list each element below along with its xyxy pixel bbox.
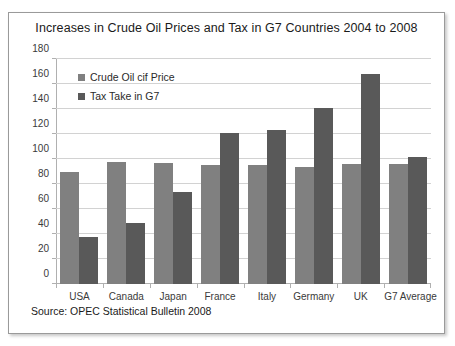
y-axis-tick-label: 160: [32, 68, 49, 79]
bar-group: Germany: [290, 59, 337, 284]
y-axis-tick-label: 100: [32, 143, 49, 154]
legend-swatch-icon: [78, 93, 85, 100]
x-axis-tick-label: Italy: [244, 291, 291, 302]
bar-group: UK: [337, 59, 384, 284]
y-axis-tick-label: 60: [38, 193, 49, 204]
legend-label: Tax Take in G7: [90, 90, 159, 102]
legend-entry: Crude Oil cif Price: [78, 71, 175, 83]
legend-label: Crude Oil cif Price: [90, 71, 175, 83]
bar-crude-oil-cif-price: [342, 164, 361, 284]
bar-crude-oil-cif-price: [154, 163, 173, 284]
bar-tax-take-in-g7: [173, 192, 192, 285]
bar-tax-take-in-g7: [408, 157, 427, 285]
plot-area: 020406080100120140160180 USACanadaJapanF…: [56, 59, 431, 284]
x-axis-tick-label: Germany: [290, 291, 337, 302]
chart-legend: Crude Oil cif PriceTax Take in G7: [78, 71, 175, 109]
bar-tax-take-in-g7: [314, 108, 333, 284]
y-axis-tick-label: 120: [32, 118, 49, 129]
x-axis-tick-label: UK: [337, 291, 384, 302]
bar-tax-take-in-g7: [126, 223, 145, 284]
x-axis-tick-mark: [150, 284, 151, 288]
x-axis-tick-label: USA: [56, 291, 103, 302]
x-axis-tick-mark: [337, 284, 338, 288]
x-axis-tick-mark: [290, 284, 291, 288]
bar-tax-take-in-g7: [267, 130, 286, 284]
x-axis-tick-mark: [430, 284, 431, 288]
x-axis-tick-label: France: [197, 291, 244, 302]
bar-crude-oil-cif-price: [295, 167, 314, 285]
y-axis-tick-label: 180: [32, 43, 49, 54]
bar-crude-oil-cif-price: [248, 165, 267, 284]
x-axis-tick-label: Japan: [150, 291, 197, 302]
bar-tax-take-in-g7: [220, 133, 239, 284]
y-axis-tick-label: 40: [38, 218, 49, 229]
chart-figure: Increases in Crude Oil Prices and Tax in…: [8, 12, 445, 334]
bar-group: France: [197, 59, 244, 284]
bar-crude-oil-cif-price: [201, 165, 220, 284]
y-axis-tick-label: 20: [38, 243, 49, 254]
chart-title: Increases in Crude Oil Prices and Tax in…: [9, 21, 444, 35]
y-axis-tick-label: 140: [32, 93, 49, 104]
bar-tax-take-in-g7: [361, 74, 380, 284]
bar-crude-oil-cif-price: [60, 172, 79, 285]
bar-crude-oil-cif-price: [389, 164, 408, 284]
bar-group: G7 Average: [384, 59, 431, 284]
bar-tax-take-in-g7: [79, 237, 98, 285]
x-axis-tick-label: Canada: [103, 291, 150, 302]
bar-group: Italy: [244, 59, 291, 284]
y-axis-tick-label: 0: [43, 268, 49, 279]
source-note: Source: OPEC Statistical Bulletin 2008: [31, 305, 211, 317]
bar-crude-oil-cif-price: [107, 162, 126, 285]
x-axis-tick-mark: [197, 284, 198, 288]
x-axis-tick-mark: [244, 284, 245, 288]
legend-entry: Tax Take in G7: [78, 90, 175, 102]
x-axis-tick-mark: [384, 284, 385, 288]
x-axis-tick-mark: [103, 284, 104, 288]
legend-swatch-icon: [78, 74, 85, 81]
x-axis-tick-mark: [56, 284, 57, 288]
x-axis-tick-label: G7 Average: [384, 291, 431, 302]
y-axis-tick-label: 80: [38, 168, 49, 179]
